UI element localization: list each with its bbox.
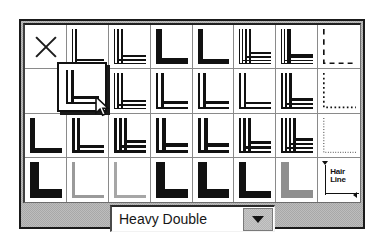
border-preview (198, 73, 230, 108)
border-preview (114, 162, 146, 198)
border-preview-glyph (114, 73, 146, 108)
border-preview-glyph (30, 162, 62, 198)
border-style-cell-r4c6[interactable] (234, 158, 276, 202)
border-style-cell-r1c5[interactable] (193, 25, 235, 69)
border-style-dropdown[interactable]: Heavy Double (110, 205, 275, 232)
border-preview (198, 162, 230, 198)
border-preview (281, 118, 313, 153)
border-preview-glyph (239, 29, 271, 64)
border-style-cell-r1c3[interactable] (109, 25, 151, 69)
border-preview (72, 29, 104, 64)
border-preview-glyph (239, 118, 271, 153)
border-preview-glyph (198, 162, 230, 198)
border-preview-glyph (30, 118, 62, 153)
border-preview (156, 29, 188, 64)
border-style-cell-r3c5[interactable] (193, 114, 235, 158)
border-style-cell-r2c5[interactable] (193, 69, 235, 113)
border-style-cell-r2c6[interactable] (234, 69, 276, 113)
border-style-cell-r3c2[interactable] (67, 114, 109, 158)
border-preview-glyph (156, 118, 188, 153)
border-preview (281, 73, 313, 108)
border-preview (281, 162, 313, 198)
border-preview (114, 118, 146, 153)
border-preview (30, 118, 62, 153)
border-preview-glyph (156, 73, 188, 108)
border-style-dialog: HairLine Heavy Double (0, 0, 383, 247)
border-style-cell-r2c4[interactable] (151, 69, 193, 113)
border-preview (114, 29, 146, 64)
border-style-cell-r4c2[interactable] (67, 158, 109, 202)
border-style-cell-r2c8[interactable] (318, 69, 360, 113)
border-preview-glyph (198, 29, 230, 64)
border-style-cell-r4c3[interactable] (109, 158, 151, 202)
border-style-cell-r1c4[interactable] (151, 25, 193, 69)
border-style-cell-r3c6[interactable] (234, 114, 276, 158)
border-preview (323, 118, 356, 153)
border-style-cell-r4c5[interactable] (193, 158, 235, 202)
mouse-pointer-icon (95, 96, 111, 118)
border-style-cell-r4c8[interactable]: HairLine (318, 158, 360, 202)
border-preview-glyph (114, 29, 146, 64)
border-preview-glyph (239, 73, 271, 108)
border-preview (239, 162, 271, 198)
border-style-cell-r4c7[interactable] (276, 158, 318, 202)
hairline-vertical-rule (325, 165, 326, 195)
border-preview (156, 73, 188, 108)
dropdown-selected-value: Heavy Double (112, 211, 243, 227)
border-preview-glyph (198, 73, 230, 108)
border-preview (239, 29, 271, 64)
border-style-cell-r1c8[interactable] (318, 25, 360, 69)
border-preview-glyph (323, 73, 356, 108)
border-preview (239, 73, 271, 108)
border-style-grid[interactable]: HairLine (23, 23, 361, 203)
border-style-cell-r3c4[interactable] (151, 114, 193, 158)
dropdown-toggle-button[interactable] (243, 208, 273, 231)
border-preview (72, 118, 104, 153)
border-preview-glyph (323, 29, 356, 64)
border-style-cell-r4c4[interactable] (151, 158, 193, 202)
border-preview-glyph (239, 162, 271, 198)
border-preview-glyph (114, 162, 146, 198)
border-preview-glyph (323, 118, 356, 153)
border-preview-glyph (198, 118, 230, 153)
border-style-cell-r3c3[interactable] (109, 114, 151, 158)
border-preview (281, 29, 313, 64)
border-preview-glyph (72, 118, 104, 153)
border-preview (323, 73, 356, 108)
border-preview (198, 29, 230, 64)
arrow-right-icon (353, 192, 357, 198)
border-preview-glyph (281, 73, 313, 108)
border-style-cell-r2c7[interactable] (276, 69, 318, 113)
border-preview-glyph (72, 29, 104, 64)
border-preview-glyph (281, 118, 313, 153)
border-preview (72, 162, 104, 198)
border-preview-glyph (281, 29, 313, 64)
border-preview-glyph (114, 118, 146, 153)
border-style-cell-r1c6[interactable] (234, 25, 276, 69)
border-style-cell-r3c1[interactable] (25, 114, 67, 158)
border-preview-glyph (156, 162, 188, 198)
chevron-down-icon (252, 216, 264, 223)
border-style-cell-r4c1[interactable] (25, 158, 67, 202)
border-style-cell-r2c3[interactable] (109, 69, 151, 113)
border-preview (156, 162, 188, 198)
border-style-cell-r1c7[interactable] (276, 25, 318, 69)
border-preview (239, 118, 271, 153)
border-preview (156, 118, 188, 153)
border-preview (198, 118, 230, 153)
hairline-label: HairLine (330, 168, 346, 185)
hairline-cell: HairLine (322, 161, 357, 199)
border-preview (323, 29, 356, 64)
border-preview (30, 162, 62, 198)
border-preview-glyph (281, 162, 313, 198)
border-preview-glyph (156, 29, 188, 64)
border-preview (114, 73, 146, 108)
no-border-x-icon (31, 33, 59, 61)
border-preview-glyph (72, 162, 104, 198)
border-style-cell-r3c7[interactable] (276, 114, 318, 158)
border-style-cell-r3c8[interactable] (318, 114, 360, 158)
